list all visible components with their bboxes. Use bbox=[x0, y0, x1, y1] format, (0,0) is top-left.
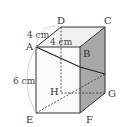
label-g: G bbox=[108, 88, 116, 99]
label-f: F bbox=[86, 114, 93, 125]
label-c: C bbox=[104, 15, 112, 26]
dim-label-ae: 6 cm bbox=[13, 76, 36, 86]
dim-label-ad: 4 cm bbox=[27, 30, 50, 40]
label-b: B bbox=[83, 48, 90, 59]
label-e: E bbox=[26, 114, 33, 125]
label-h: H bbox=[50, 86, 59, 97]
dim-label-ab: 4 cm bbox=[50, 37, 73, 47]
label-a: A bbox=[25, 41, 34, 52]
label-d: D bbox=[57, 15, 65, 26]
prism-diagram: D C A B H G E F 4 cm 4 cm 6 cm bbox=[0, 0, 125, 127]
